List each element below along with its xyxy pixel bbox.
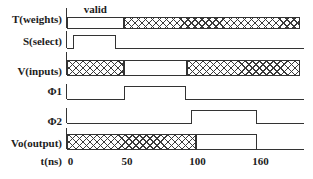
signal-label: Vo(output) (0, 137, 62, 149)
segment-low-baseline (67, 99, 124, 100)
segment-high-pulse (191, 110, 257, 124)
axis-tick-label: 0 (68, 155, 74, 167)
segment-low-baseline (67, 123, 191, 124)
timing-diagram: t(ns) T(weights)validS(select)V(inputs)Φ… (0, 0, 313, 179)
valid-annotation: valid (84, 3, 107, 15)
axis-tick-label: 50 (122, 155, 133, 167)
signal-start-tick (66, 31, 67, 48)
axis-tick-label: 160 (252, 155, 269, 167)
axis-label: t(ns) (0, 155, 62, 167)
signal-label: Φ2 (0, 115, 62, 127)
signal-label: T(weights) (0, 13, 62, 25)
segment-high-pulse (73, 35, 116, 49)
signal-start-tick (66, 84, 67, 99)
segment-low-baseline (257, 123, 304, 124)
segment-low-baseline (116, 48, 304, 49)
segment-hatch-box (187, 60, 300, 76)
segment-valid-box (196, 134, 257, 150)
segment-low-baseline (257, 149, 304, 150)
axis-tick-label: 100 (189, 155, 206, 167)
segment-high-pulse (124, 86, 186, 100)
signal-label: V(inputs) (0, 65, 62, 77)
segment-low-baseline (186, 99, 304, 100)
segment-valid-box (124, 60, 187, 76)
segment-valid-box (67, 17, 124, 29)
signal-label: Φ1 (0, 85, 62, 97)
signal-label: S(select) (0, 35, 62, 47)
segment-hatch-box (124, 17, 300, 29)
segment-hatch-box (67, 60, 124, 76)
segment-hatch-box (67, 134, 196, 150)
signal-start-tick (66, 108, 67, 123)
